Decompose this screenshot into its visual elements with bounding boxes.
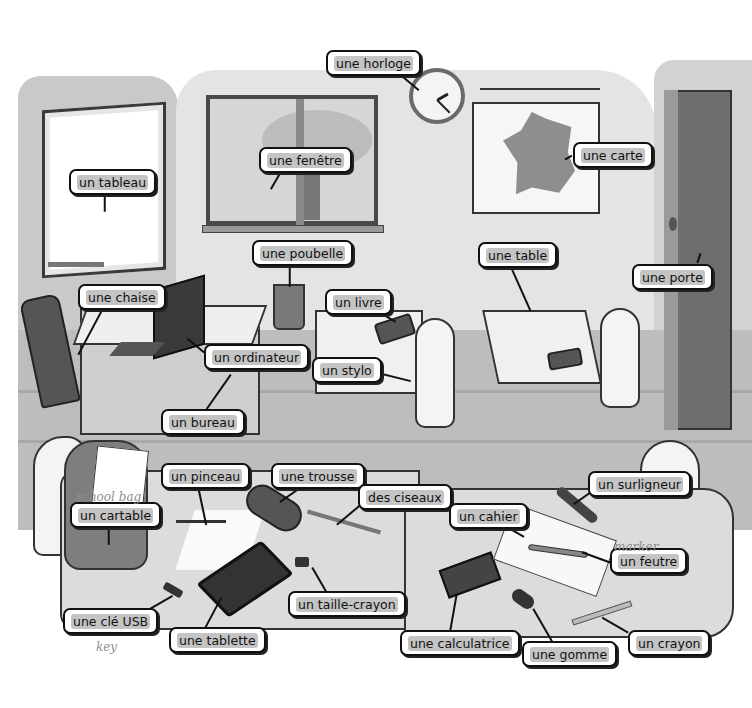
- label-pinceau: un pinceau: [161, 463, 250, 489]
- pencil-sharpener: [295, 557, 309, 567]
- leader-line: [108, 529, 110, 545]
- label-text: un feutre: [618, 554, 679, 569]
- label-cle-usb: une clé USB: [63, 608, 158, 634]
- label-ordinateur: un ordinateur: [204, 344, 309, 370]
- student-chair: [600, 308, 640, 408]
- label-horloge: une horloge: [326, 50, 421, 76]
- door-knob: [669, 217, 677, 231]
- label-text: des ciseaux: [366, 490, 444, 505]
- student-table: [482, 310, 602, 384]
- label-fenetre: une fenêtre: [259, 147, 352, 173]
- label-gomme: une gomme: [522, 641, 617, 667]
- label-poubelle: une poubelle: [252, 240, 353, 266]
- student-chair: [415, 318, 455, 428]
- label-ciseaux: des ciseaux: [358, 484, 452, 510]
- label-taille-crayon: un taille-crayon: [288, 591, 406, 617]
- label-tablette: une tablette: [169, 627, 266, 653]
- label-text: un crayon: [636, 636, 702, 651]
- paintbrush: [176, 520, 226, 523]
- map-hanging-string: [480, 88, 600, 102]
- label-text: un pinceau: [169, 469, 242, 484]
- clock-illustration: [409, 68, 465, 124]
- handwritten-note-marker: marker: [614, 540, 658, 554]
- handwritten-note-school-bag: school bag: [76, 490, 141, 504]
- label-text: un taille-crayon: [296, 597, 398, 612]
- label-surligneur: un surligneur: [588, 471, 691, 497]
- label-text: un cartable: [78, 508, 153, 523]
- label-table: une table: [478, 242, 557, 268]
- handwritten-note-key: key: [96, 640, 117, 654]
- leader-line: [289, 267, 291, 287]
- label-text: un stylo: [320, 363, 374, 378]
- whiteboard-tray: [48, 262, 104, 267]
- label-text: une horloge: [334, 56, 413, 71]
- label-text: un cahier: [457, 509, 520, 524]
- label-carte: une carte: [573, 142, 653, 168]
- label-text: une trousse: [279, 469, 357, 484]
- label-chaise: une chaise: [78, 284, 166, 310]
- label-text: un surligneur: [596, 477, 683, 492]
- door-frame: [664, 90, 678, 430]
- label-livre: un livre: [325, 289, 392, 315]
- label-text: une gomme: [530, 647, 609, 662]
- label-text: un tableau: [77, 175, 148, 190]
- label-text: une calculatrice: [408, 636, 512, 651]
- window-sill: [202, 225, 384, 233]
- label-crayon: un crayon: [628, 630, 710, 656]
- label-bureau: un bureau: [161, 409, 245, 435]
- label-text: une clé USB: [71, 614, 150, 629]
- label-trousse: une trousse: [271, 463, 365, 489]
- label-text: un livre: [333, 295, 384, 310]
- label-porte: une porte: [632, 264, 713, 290]
- label-text: une fenêtre: [267, 153, 344, 168]
- label-tableau: un tableau: [69, 169, 156, 195]
- label-text: un ordinateur: [212, 350, 301, 365]
- label-text: une porte: [640, 270, 705, 285]
- label-text: un bureau: [169, 415, 237, 430]
- label-calculatrice: une calculatrice: [400, 630, 520, 656]
- label-text: une carte: [581, 148, 645, 163]
- label-text: une tablette: [177, 633, 258, 648]
- label-text: une table: [486, 248, 549, 263]
- trash-bin: [273, 284, 305, 330]
- label-stylo: un stylo: [312, 357, 382, 383]
- label-cahier: un cahier: [449, 503, 528, 529]
- leader-line: [104, 196, 106, 212]
- label-text: une chaise: [86, 290, 158, 305]
- label-cartable: un cartable: [70, 502, 161, 528]
- label-text: une poubelle: [260, 246, 345, 261]
